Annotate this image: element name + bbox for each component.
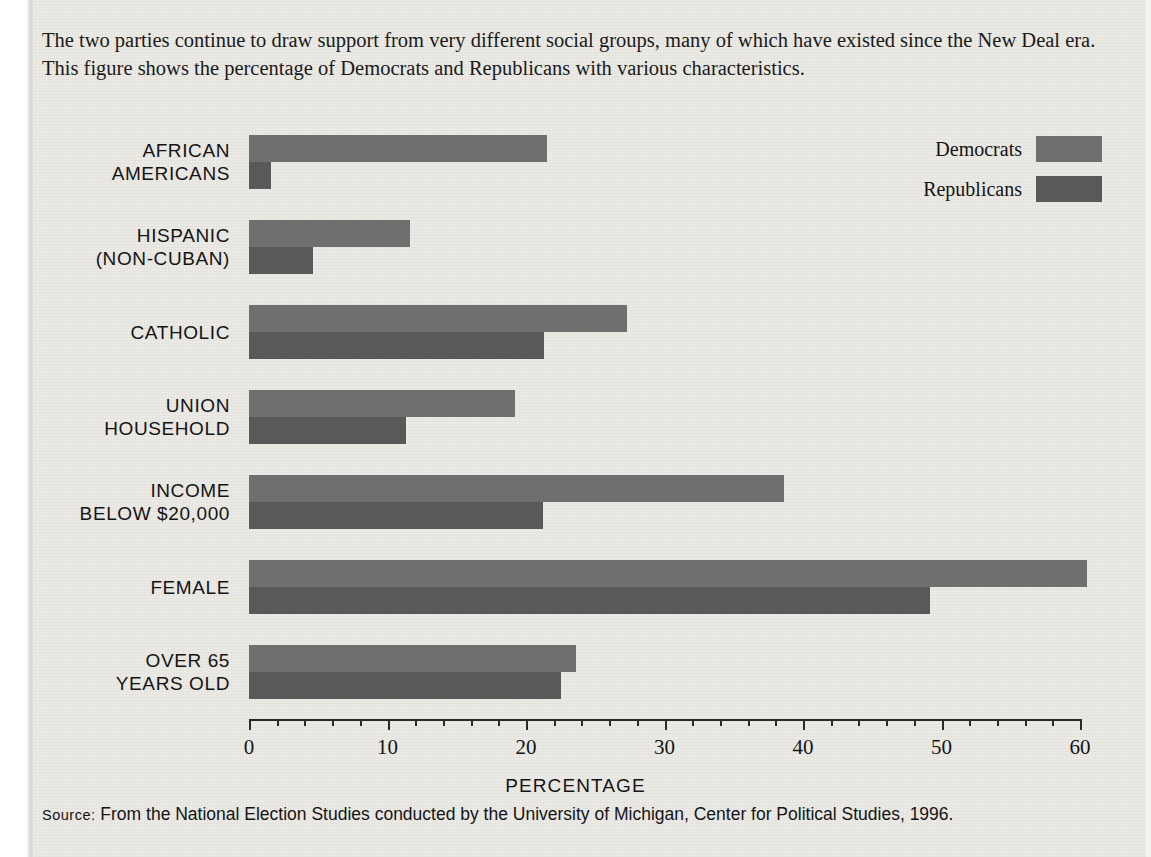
category-label-4: INCOMEBELOW $20,000 <box>8 479 230 525</box>
category-label-1: HISPANIC(NON-CUBAN) <box>8 224 230 270</box>
x-tick-minor-36 <box>748 719 750 726</box>
bar-democrats-1 <box>249 220 410 247</box>
x-tick-major-40 <box>803 719 805 730</box>
x-tick-label-30: 30 <box>635 735 695 760</box>
category-label-line: HOUSEHOLD <box>8 417 230 440</box>
x-tick-minor-16 <box>471 719 473 726</box>
bar-republicans-5 <box>249 587 930 614</box>
x-tick-label-0: 0 <box>219 735 279 760</box>
bar-republicans-4 <box>249 502 543 529</box>
category-label-line: OVER 65 <box>8 649 230 672</box>
x-tick-minor-32 <box>692 719 694 726</box>
source-label: Source: <box>42 807 95 823</box>
bar-republicans-2 <box>249 332 544 359</box>
source-note: Source: From the National Election Studi… <box>42 800 1114 829</box>
x-tick-minor-46 <box>886 719 888 726</box>
x-tick-minor-58 <box>1052 719 1054 726</box>
category-label-line: AMERICANS <box>8 162 230 185</box>
bar-republicans-0 <box>249 162 271 189</box>
category-label-line: YEARS OLD <box>8 672 230 695</box>
category-label-line: UNION <box>8 394 230 417</box>
bar-republicans-3 <box>249 417 406 444</box>
x-tick-major-50 <box>942 719 944 730</box>
x-tick-label-20: 20 <box>496 735 556 760</box>
x-tick-minor-28 <box>637 719 639 726</box>
legend-swatch-republicans <box>1036 176 1102 202</box>
bar-chart: AFRICANAMERICANSHISPANIC(NON-CUBAN)CATHO… <box>0 118 1151 788</box>
x-tick-label-10: 10 <box>358 735 418 760</box>
category-label-5: FEMALE <box>8 576 230 599</box>
x-tick-major-10 <box>388 719 390 730</box>
category-label-line: BELOW $20,000 <box>8 502 230 525</box>
x-tick-major-30 <box>665 719 667 730</box>
category-label-6: OVER 65YEARS OLD <box>8 649 230 695</box>
x-tick-major-0 <box>249 719 251 730</box>
bar-democrats-0 <box>249 135 547 162</box>
figure-caption: The two parties continue to draw support… <box>42 26 1114 82</box>
x-tick-label-60: 60 <box>1050 735 1110 760</box>
legend-item-republicans: Republicans <box>890 176 1102 202</box>
x-tick-minor-22 <box>554 719 556 726</box>
x-tick-minor-56 <box>1025 719 1027 726</box>
x-tick-minor-2 <box>277 719 279 726</box>
x-tick-minor-52 <box>969 719 971 726</box>
figure-page: The two parties continue to draw support… <box>0 0 1151 857</box>
x-tick-minor-18 <box>498 719 500 726</box>
category-label-3: UNIONHOUSEHOLD <box>8 394 230 440</box>
x-tick-minor-14 <box>443 719 445 726</box>
legend-swatch-democrats <box>1036 136 1102 162</box>
bar-democrats-4 <box>249 475 784 502</box>
legend-label-republicans: Republicans <box>890 178 1022 201</box>
x-tick-minor-48 <box>914 719 916 726</box>
x-tick-minor-44 <box>858 719 860 726</box>
category-label-line: FEMALE <box>8 576 230 599</box>
bar-republicans-6 <box>249 672 561 699</box>
x-tick-minor-12 <box>415 719 417 726</box>
x-tick-minor-54 <box>997 719 999 726</box>
category-label-line: (NON-CUBAN) <box>8 247 230 270</box>
x-tick-major-20 <box>526 719 528 730</box>
page-left-margin-shade <box>26 0 34 857</box>
x-tick-minor-38 <box>775 719 777 726</box>
legend-item-democrats: Democrats <box>890 136 1102 162</box>
x-tick-minor-8 <box>360 719 362 726</box>
x-tick-minor-42 <box>831 719 833 726</box>
x-tick-label-40: 40 <box>773 735 833 760</box>
category-label-2: CATHOLIC <box>8 321 230 344</box>
x-tick-minor-24 <box>581 719 583 726</box>
legend-label-democrats: Democrats <box>890 138 1022 161</box>
source-text: From the National Election Studies condu… <box>95 804 953 824</box>
x-tick-major-60 <box>1080 719 1082 730</box>
category-label-0: AFRICANAMERICANS <box>8 139 230 185</box>
bar-democrats-6 <box>249 645 576 672</box>
category-label-line: CATHOLIC <box>8 321 230 344</box>
bar-democrats-5 <box>249 560 1087 587</box>
bar-republicans-1 <box>249 247 313 274</box>
x-tick-minor-26 <box>609 719 611 726</box>
x-axis-title: PERCENTAGE <box>0 775 1151 797</box>
bar-democrats-3 <box>249 390 515 417</box>
category-label-line: AFRICAN <box>8 139 230 162</box>
page-right-edge <box>1146 0 1151 857</box>
category-label-line: INCOME <box>8 479 230 502</box>
x-tick-label-50: 50 <box>912 735 972 760</box>
x-tick-minor-4 <box>304 719 306 726</box>
x-tick-minor-6 <box>332 719 334 726</box>
bar-democrats-2 <box>249 305 627 332</box>
category-label-line: HISPANIC <box>8 224 230 247</box>
x-tick-minor-34 <box>720 719 722 726</box>
